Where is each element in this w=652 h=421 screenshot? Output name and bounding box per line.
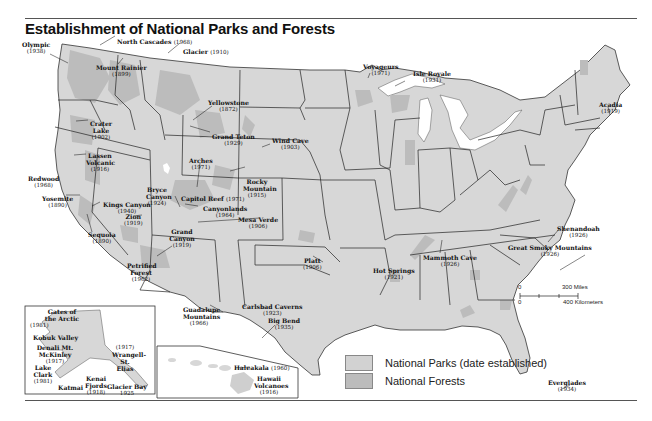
scale-miles-label: 300 Miles (562, 284, 588, 290)
park-label-hot-springs: Hot Springs(1921) (373, 267, 415, 281)
park-label-zion: Zion(1919) (124, 213, 143, 227)
park-label-grand-canyon: Grand Canyon(1919) (168, 228, 196, 249)
park-label-isle-royale: Isle Royale(1931) (413, 70, 451, 84)
park-label-kobuk-valley: Kobuk Valley (33, 334, 78, 341)
park-label-acadia: Acadia(1919) (599, 101, 622, 115)
park-label-rocky-mountain: Rocky Mountain(1915) (243, 178, 271, 199)
park-label-kenai-fjords: Kenai Fjords(1918) (85, 375, 107, 396)
park-label-lake-clark: Lake Clark(1981) (33, 364, 53, 385)
park-label-mount-rainier: Mount Rainier(1899) (96, 64, 147, 78)
park-label-wrangell-st-elias: (1917)Wrangell-St. Elias (112, 344, 138, 372)
scale-zero-miles: 0 (518, 284, 521, 290)
park-label-north-cascades: North Cascades (1968) (117, 38, 192, 46)
park-label-great-smoky-mountains: Great Smoky Mountains(1926) (508, 244, 592, 258)
park-label-big-bend: Big Bend(1935) (268, 317, 300, 331)
park-label-yellowstone: Yellowstone(1872) (208, 99, 249, 113)
park-label-denali: Denali Mt. McKinley(1917) (35, 344, 75, 365)
legend-item-national-parks: National Parks (date established) (345, 355, 547, 371)
park-label-shenandoah: Shenandoah(1926) (557, 225, 600, 239)
park-label-platt: Platt(1906) (303, 257, 322, 271)
park-label-katmai: Katmai (58, 384, 83, 391)
park-label-petrified-forest: Petrified Forest(1962) (127, 262, 155, 283)
park-label-olympic: Olympic(1938) (22, 41, 50, 55)
park-label-grand-teton: Grand Teton(1929) (212, 133, 255, 147)
park-label-sequoia: Sequoia(1890) (88, 231, 116, 245)
park-label-gates-of-the-arctic: Gates of the Arctic(1981) (42, 308, 82, 329)
park-label-haleakala: Haleakala (1960) (234, 364, 290, 372)
park-label-yosemite: Yosemite(1890) (42, 195, 73, 209)
bottom-rule (25, 400, 637, 401)
park-label-hawaii-volcanoes: Hawaii Volcanoes(1916) (254, 375, 284, 396)
park-label-voyageurs: Voyageurs(1971) (363, 63, 398, 77)
scale-km-label: 400 Kilometers (563, 299, 603, 305)
park-label-crater-lake: Crater Lake(1902) (88, 120, 114, 141)
park-label-capitol-reef: Capitol Reef (1971) (181, 195, 245, 203)
scale-zero-km: 0 (518, 299, 521, 305)
park-label-mammoth-cave: Mammoth Cave(1926) (423, 254, 477, 268)
national-forests-swatch (345, 373, 373, 389)
park-label-carlsbad-caverns: Carlsbad Caverns(1923) (242, 303, 303, 317)
park-label-glacier-bay: Glacier Bay1925 (107, 383, 147, 397)
national-parks-swatch (345, 355, 373, 371)
park-label-wind-cave: Wind Cave(1903) (272, 137, 309, 151)
park-label-mesa-verde: Mesa Verde(1906) (238, 216, 278, 230)
legend-item-national-forests: National Forests (345, 373, 547, 389)
park-label-everglades: Everglades(1934) (548, 379, 586, 393)
map-legend: National Parks (date established) Nation… (345, 355, 547, 391)
park-label-lassen-volcanic: Lassen Volcanic(1916) (86, 152, 114, 173)
park-label-redwood: Redwood(1968) (28, 175, 59, 189)
park-label-glacier: Glacier (1910) (183, 48, 229, 56)
park-label-guadalupe-mountains: Guadalupe Mountains(1966) (183, 306, 215, 327)
park-label-arches: Arches(1971) (189, 157, 213, 171)
